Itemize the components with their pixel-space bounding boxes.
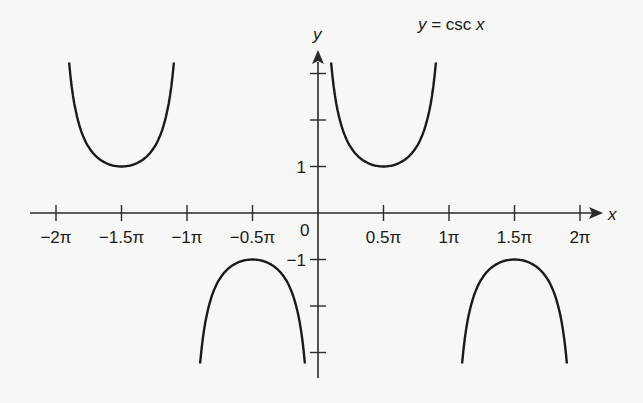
csc-branch bbox=[200, 260, 305, 364]
y-tick-label: −1 bbox=[287, 251, 306, 270]
x-ticks: −2π−1.5π−1π−0.5π0.5π1π1.5π2π bbox=[40, 205, 590, 247]
x-tick-label: −2π bbox=[40, 228, 71, 247]
axes bbox=[30, 50, 603, 378]
title-x: x bbox=[475, 15, 485, 34]
origin-label: 0 bbox=[300, 221, 309, 240]
x-tick-label: 0.5π bbox=[366, 228, 401, 247]
x-tick-label: −1.5π bbox=[99, 228, 144, 247]
csc-chart: −2π−1.5π−1π−0.5π0.5π1π1.5π2π 1−1 x y 0 y… bbox=[0, 0, 643, 403]
x-tick-label: 2π bbox=[569, 228, 590, 247]
y-axis-arrow-icon bbox=[312, 50, 324, 64]
x-axis-label: x bbox=[607, 205, 617, 224]
y-tick-label: 1 bbox=[297, 158, 306, 177]
csc-branch bbox=[462, 260, 567, 364]
x-tick-label: 1π bbox=[438, 228, 459, 247]
chart-title: y = csc x bbox=[417, 15, 485, 34]
csc-branch bbox=[331, 63, 436, 167]
x-tick-label: −0.5π bbox=[230, 228, 275, 247]
x-tick-label: −1π bbox=[171, 228, 202, 247]
csc-branch bbox=[69, 63, 174, 167]
x-tick-label: 1.5π bbox=[497, 228, 532, 247]
title-eq: = csc bbox=[427, 15, 477, 34]
y-axis-label: y bbox=[312, 25, 323, 44]
